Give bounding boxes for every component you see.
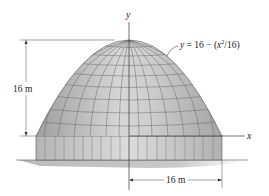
- equation-label: y = 16 − (x2/16): [179, 39, 240, 51]
- radius-label: 16 m: [166, 175, 186, 185]
- height-label: 16 m: [13, 84, 33, 94]
- equation-annotation: y = 16 − (x2/16): [167, 39, 240, 56]
- dome-diagram: y x y = 16 − (x2/16) 16 m 16 m: [0, 0, 269, 196]
- y-axis-label: y: [125, 9, 131, 20]
- x-axis-label: x: [246, 130, 252, 141]
- ground-shadow: [18, 160, 245, 168]
